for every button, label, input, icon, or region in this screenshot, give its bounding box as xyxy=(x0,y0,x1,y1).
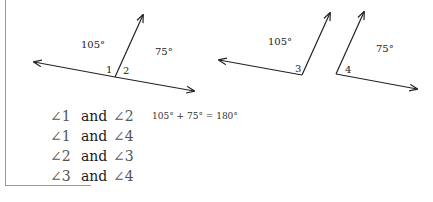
angle-a: ∠1 xyxy=(50,106,81,126)
angle-number-4: 4 xyxy=(345,64,351,75)
conjunction: and xyxy=(81,126,113,146)
angle-a: ∠2 xyxy=(50,146,81,166)
angle-number-2: 2 xyxy=(123,65,129,76)
angle-b: ∠2 xyxy=(113,106,143,126)
conjunction: and xyxy=(81,106,113,126)
sum-equation: 105° + 75° = 180° xyxy=(152,109,238,123)
conjunction: and xyxy=(81,146,113,166)
angle-measure-105: 105° xyxy=(81,39,105,50)
angle-a: ∠1 xyxy=(50,126,81,146)
angle-pairs-list: ∠1and∠2 ∠1and∠4 ∠2and∠3 ∠3and∠4 xyxy=(50,106,143,186)
ray-upper xyxy=(302,13,330,75)
figure-angle-4: 75° 4 xyxy=(336,12,417,89)
angle-a: ∠3 xyxy=(50,166,81,186)
angle-b: ∠4 xyxy=(113,126,143,146)
conjunction: and xyxy=(81,166,113,186)
angle-b: ∠3 xyxy=(113,146,143,166)
angle-number-3: 3 xyxy=(295,63,301,74)
figure-angle-3: 105° 3 xyxy=(219,13,330,75)
angle-pair-row: ∠2and∠3 xyxy=(50,146,143,166)
ray-left xyxy=(219,60,302,75)
angle-pair-row: ∠1and∠4 xyxy=(50,126,143,146)
line-ray-right xyxy=(115,77,194,91)
angle-measure-75: 75° xyxy=(155,46,173,57)
angle-b: ∠4 xyxy=(113,166,143,186)
line-ray-left xyxy=(34,62,115,77)
angle-pair-row: ∠1and∠2 xyxy=(50,106,143,126)
angle-measure-105: 105° xyxy=(268,36,292,47)
angle-measure-75: 75° xyxy=(376,43,394,54)
angle-pair-row: ∠3and∠4 xyxy=(50,166,143,186)
ray-right xyxy=(336,74,417,89)
angle-number-1: 1 xyxy=(106,64,112,75)
figure-linear-pair: 105° 75° 1 2 xyxy=(34,15,194,91)
